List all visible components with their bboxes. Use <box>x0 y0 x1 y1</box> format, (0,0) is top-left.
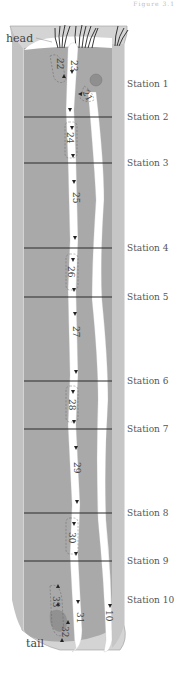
skin-fold-right <box>112 44 124 648</box>
organism-diagram: 22 23 21 24 25 26 27 28 29 30 31 33 32 1… <box>0 0 179 676</box>
skin-fold-left <box>10 26 22 630</box>
head-label: head <box>6 32 33 45</box>
station-label-7: Station 7 <box>127 424 168 434</box>
segment-label-33: 33 <box>51 596 61 608</box>
segment-label-22: 22 <box>55 58 65 69</box>
segment-label-24: 24 <box>65 132 75 144</box>
segment-label-27: 27 <box>71 326 81 338</box>
station-label-6: Station 6 <box>127 376 168 386</box>
segment-label-30: 30 <box>67 532 77 544</box>
station-label-3: Station 3 <box>127 158 168 168</box>
organ-blob-top <box>90 74 102 86</box>
station-label-2: Station 2 <box>127 112 168 122</box>
segment-label-32: 32 <box>60 626 70 637</box>
station-label-4: Station 4 <box>127 243 168 253</box>
station-label-10: Station 10 <box>127 595 174 605</box>
station-label-9: Station 9 <box>127 556 168 566</box>
segment-label-10: 10 <box>104 610 114 622</box>
segment-label-23: 23 <box>69 60 79 72</box>
tail-label: tail <box>26 637 44 650</box>
segment-label-28: 28 <box>67 399 77 411</box>
segment-label-29: 29 <box>72 462 82 474</box>
station-label-1: Station 1 <box>127 79 168 89</box>
segment-label-31: 31 <box>75 612 85 623</box>
segment-label-25: 25 <box>71 192 81 204</box>
segment-label-26: 26 <box>66 266 76 278</box>
station-label-5: Station 5 <box>127 292 168 302</box>
station-label-8: Station 8 <box>127 508 168 518</box>
